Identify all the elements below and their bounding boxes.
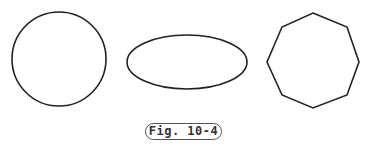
ellipse-shape (127, 35, 247, 89)
octagon-shape (267, 13, 359, 108)
circle-shape (12, 12, 106, 106)
figure-caption: Fig. 10-4 (145, 123, 222, 140)
